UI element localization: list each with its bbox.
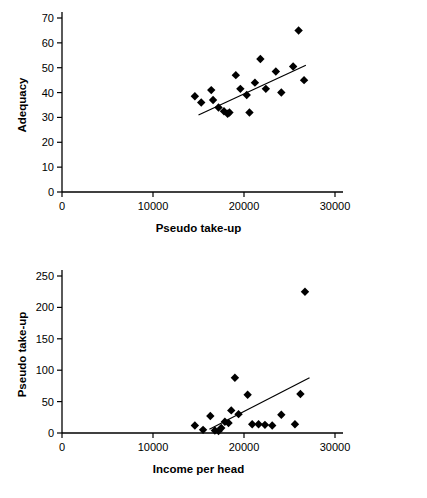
data-point	[231, 374, 239, 382]
x-tick-label: 0	[59, 441, 65, 453]
y-tick-label: 100	[36, 364, 54, 376]
data-point	[277, 411, 285, 419]
data-point	[262, 85, 270, 93]
x-tick-label: 10000	[138, 441, 169, 453]
scatter-chart-adequacy: 0102030405060700100002000030000Pseudo ta…	[0, 0, 427, 250]
data-point	[261, 421, 269, 429]
data-point	[291, 420, 299, 428]
y-axis-title: Adequacy	[16, 77, 28, 133]
data-point	[209, 96, 217, 104]
y-tick-label: 0	[48, 186, 54, 198]
data-point	[268, 421, 276, 429]
x-tick-label: 0	[59, 200, 65, 212]
data-point	[236, 85, 244, 93]
y-tick-label: 60	[42, 37, 54, 49]
data-point	[197, 98, 205, 106]
data-point	[227, 406, 235, 414]
data-point	[191, 421, 199, 429]
y-tick-label: 200	[36, 301, 54, 313]
x-tick-label: 10000	[138, 200, 169, 212]
y-tick-label: 150	[36, 333, 54, 345]
y-tick-label: 20	[42, 136, 54, 148]
y-tick-label: 30	[42, 111, 54, 123]
data-point	[294, 26, 302, 34]
data-point	[207, 86, 215, 94]
x-tick-label: 30000	[320, 200, 351, 212]
figure-container: 0102030405060700100002000030000Pseudo ta…	[0, 0, 427, 498]
y-tick-label: 10	[42, 161, 54, 173]
data-point	[243, 390, 251, 398]
data-point	[245, 108, 253, 116]
chart-bottom-svg: 0501001502002500100002000030000Income pe…	[0, 258, 427, 498]
data-point	[191, 92, 199, 100]
data-point	[206, 412, 214, 420]
data-point	[300, 76, 308, 84]
x-tick-label: 30000	[320, 441, 351, 453]
y-tick-label: 70	[42, 12, 54, 24]
data-point	[301, 288, 309, 296]
x-axis-title: Income per head	[153, 463, 244, 475]
y-tick-label: 50	[42, 62, 54, 74]
y-tick-label: 40	[42, 87, 54, 99]
data-point	[277, 88, 285, 96]
x-tick-label: 20000	[229, 200, 260, 212]
data-point	[232, 71, 240, 79]
y-tick-label: 250	[36, 270, 54, 282]
x-axis-title: Pseudo take-up	[156, 222, 242, 234]
chart-top-svg: 0102030405060700100002000030000Pseudo ta…	[0, 0, 427, 250]
data-point	[251, 78, 259, 86]
data-point	[272, 67, 280, 75]
x-tick-label: 20000	[229, 441, 260, 453]
y-tick-label: 0	[48, 427, 54, 439]
data-point	[296, 390, 304, 398]
scatter-chart-pseudo-takeup: 0501001502002500100002000030000Income pe…	[0, 258, 427, 498]
data-point	[243, 91, 251, 99]
data-point	[256, 55, 264, 63]
y-tick-label: 50	[42, 396, 54, 408]
y-axis-title: Pseudo take-up	[16, 312, 28, 398]
data-point	[234, 410, 242, 418]
